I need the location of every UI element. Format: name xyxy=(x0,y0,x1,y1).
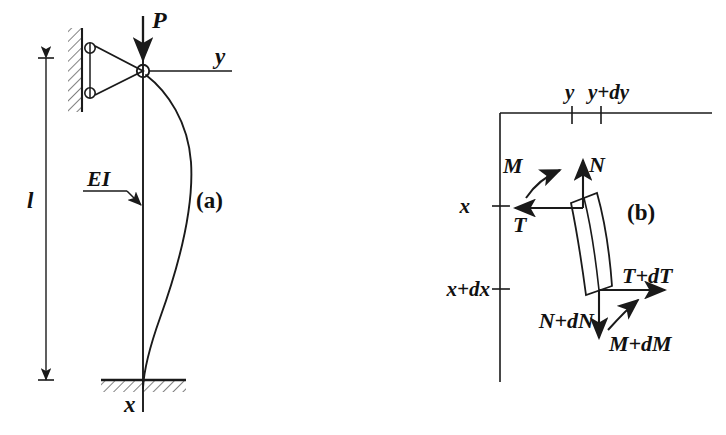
moment-M-top xyxy=(526,170,560,198)
moment-M-label: M xyxy=(502,153,524,178)
x-tick-label: x xyxy=(459,194,471,218)
y-plus-dy-tick-label: y+dy xyxy=(585,80,630,104)
panel-a: l P y xyxy=(27,7,232,417)
panel-b-caption: (b) xyxy=(627,200,655,225)
force-N-dN-label: N+dN xyxy=(538,308,595,333)
y-axis-label-a: y xyxy=(212,44,226,69)
force-N-label: N xyxy=(588,152,606,177)
force-T-dT-label: T+dT xyxy=(622,263,674,288)
flexural-rigidity-label: EI xyxy=(86,166,112,191)
length-label: l xyxy=(27,188,34,213)
engineering-figure: l P y xyxy=(0,0,726,435)
x-plus-dx-tick-label: x+dx xyxy=(446,277,490,301)
x-axis-label-a: x xyxy=(123,392,136,417)
buckled-curve xyxy=(143,75,191,388)
axial-load-label: P xyxy=(151,7,167,33)
length-dimension xyxy=(38,58,54,380)
force-T-label: T xyxy=(513,212,528,237)
panel-a-caption: (a) xyxy=(196,188,223,213)
flexural-rigidity-leader xyxy=(83,191,141,205)
moment-M-dM-label: M+dM xyxy=(608,331,673,356)
moment-M-dM-bottom xyxy=(608,300,638,330)
figure-container: l P y xyxy=(0,0,726,435)
fixed-base-support xyxy=(101,380,186,392)
panel-b: y y+dy x x+dx N T M xyxy=(446,80,712,382)
roller-support xyxy=(85,43,143,98)
y-tick-label: y xyxy=(562,80,575,104)
wall-support xyxy=(68,28,82,112)
